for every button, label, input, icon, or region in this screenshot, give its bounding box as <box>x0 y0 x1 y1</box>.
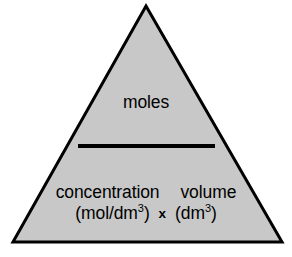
formula-triangle-diagram: moles concentrationvolume (mol/dm3)x(dm3… <box>0 0 292 257</box>
multiplication-operator: x <box>159 207 166 221</box>
denominator-right-term-unit: (dm3) <box>175 205 217 223</box>
denominator-units-row: (mol/dm3)x(dm3) <box>0 205 292 223</box>
denominator-left-term-unit: (mol/dm3) <box>75 205 149 223</box>
denominator-names-row: concentrationvolume <box>0 184 292 202</box>
right-unit-close: ) <box>211 203 217 223</box>
right-unit-open: (dm <box>175 203 205 223</box>
denominator-right-term-name: volume <box>180 184 236 202</box>
denominator-left-term-name: concentration <box>56 184 160 202</box>
left-unit-close: ) <box>144 203 150 223</box>
numerator-label-moles: moles <box>0 94 292 112</box>
left-unit-open: (mol/dm <box>75 203 138 223</box>
